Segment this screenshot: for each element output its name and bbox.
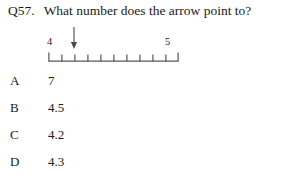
- answer-options-list: A 7 B 4.5 C 4.2 D 4.3: [0, 72, 298, 180]
- option-letter: B: [10, 99, 19, 116]
- option-letter: C: [10, 126, 19, 143]
- number-line-ticks: [49, 53, 178, 62]
- question-text: What number does the arrow point to?: [44, 3, 252, 19]
- option-letter: D: [10, 153, 19, 170]
- pointer-arrow-icon: [71, 27, 77, 49]
- answer-option-d[interactable]: D 4.3: [0, 153, 298, 180]
- question-block: Q57.What number does the arrow point to?: [8, 3, 251, 19]
- option-value: 4.5: [48, 99, 64, 116]
- number-line-graphic: [48, 26, 179, 62]
- answer-option-a[interactable]: A 7: [0, 72, 298, 99]
- question-page: Q57.What number does the arrow point to?…: [0, 0, 298, 183]
- answer-option-b[interactable]: B 4.5: [0, 99, 298, 126]
- option-value: 7: [48, 72, 55, 89]
- answer-option-c[interactable]: C 4.2: [0, 126, 298, 153]
- option-value: 4.3: [48, 153, 64, 170]
- option-letter: A: [10, 72, 19, 89]
- option-value: 4.2: [48, 126, 64, 143]
- number-line-figure: 4 5: [48, 26, 179, 62]
- question-number: Q57.: [8, 3, 35, 19]
